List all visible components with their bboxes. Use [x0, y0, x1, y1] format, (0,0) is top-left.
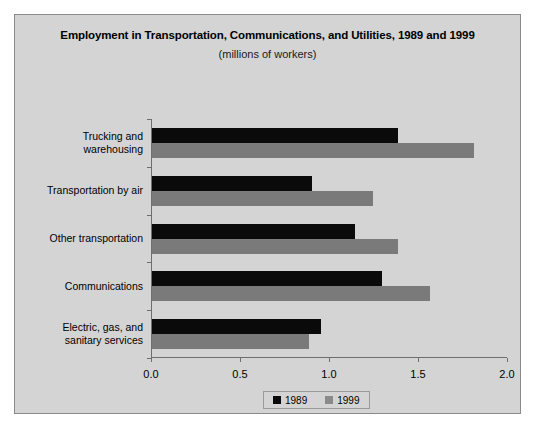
- legend-label: 1999: [337, 395, 359, 406]
- legend-label: 1989: [285, 395, 307, 406]
- legend-swatch-icon: [273, 396, 281, 404]
- category-label: Other transportation: [15, 232, 143, 245]
- bar-1989: [152, 128, 398, 143]
- chart-title: Employment in Transportation, Communicat…: [15, 28, 520, 43]
- legend-item-1999: 1999: [325, 395, 359, 406]
- legend-item-1989: 1989: [273, 395, 307, 406]
- category-label: Trucking andwarehousing: [15, 130, 143, 156]
- x-tick-label: 1.5: [398, 368, 438, 380]
- bar-1999: [152, 286, 430, 301]
- x-tick: [151, 358, 152, 362]
- chart-subtitle: (millions of workers): [15, 46, 520, 62]
- bar-1999: [152, 239, 398, 254]
- category-label: Electric, gas, andsanitary services: [15, 321, 143, 347]
- x-tick: [240, 358, 241, 362]
- category-label: Communications: [15, 280, 143, 293]
- legend-swatch-icon: [325, 396, 333, 404]
- y-tick: [147, 262, 151, 263]
- y-tick: [147, 215, 151, 216]
- bar-1999: [152, 334, 309, 349]
- title-block: Employment in Transportation, Communicat…: [15, 28, 520, 62]
- x-tick: [507, 358, 508, 362]
- x-tick-label: 0.5: [220, 368, 260, 380]
- y-tick: [147, 167, 151, 168]
- x-tick-label: 0.0: [131, 368, 171, 380]
- x-tick-label: 1.0: [309, 368, 349, 380]
- bar-1989: [152, 319, 321, 334]
- chart-figure: Employment in Transportation, Communicat…: [14, 14, 521, 414]
- bar-1999: [152, 191, 373, 206]
- y-tick: [147, 119, 151, 120]
- bar-1989: [152, 271, 382, 286]
- bar-1989: [152, 224, 355, 239]
- bar-1999: [152, 143, 474, 158]
- y-tick: [147, 358, 151, 359]
- bar-1989: [152, 176, 312, 191]
- x-tick: [418, 358, 419, 362]
- x-tick-label: 2.0: [487, 368, 527, 380]
- plot-area: 0.00.51.01.52.0 Trucking andwarehousingT…: [151, 119, 507, 358]
- chart-legend: 19891999: [263, 391, 370, 409]
- y-tick: [147, 310, 151, 311]
- x-tick: [329, 358, 330, 362]
- category-label: Transportation by air: [15, 184, 143, 197]
